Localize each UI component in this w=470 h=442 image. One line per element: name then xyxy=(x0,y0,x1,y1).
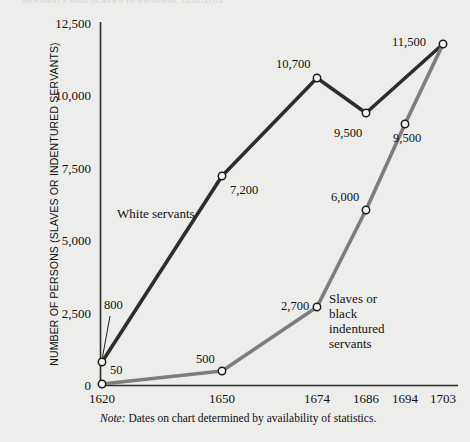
data-point-slaves-1694 xyxy=(401,120,408,127)
data-label-white-1674: 10,700 xyxy=(276,58,310,71)
data-point-slaves-1674 xyxy=(313,303,320,310)
data-label-white-1686: 9,500 xyxy=(334,127,362,140)
series-label-white-servants: White servants xyxy=(117,206,195,221)
note-prefix: Note: xyxy=(100,412,126,424)
plot-area xyxy=(0,0,470,442)
data-label-slaves-1674: 2,700 xyxy=(281,300,309,313)
series-label-slaves: Slaves or black indentured servants xyxy=(329,291,413,351)
data-point-slaves-1650 xyxy=(218,367,225,374)
data-point-white-1650 xyxy=(218,172,225,179)
data-label-slaves-1686: 6,000 xyxy=(331,191,359,204)
series-label-slaves-line3: servants xyxy=(329,336,372,351)
data-point-white-1674 xyxy=(313,74,320,81)
note-text: Dates on chart determined by availabilit… xyxy=(126,412,377,424)
data-label-slaves-1650: 500 xyxy=(196,353,215,366)
data-label-white-1620: 800 xyxy=(104,299,123,312)
data-label-slaves-1620: 50 xyxy=(110,364,123,377)
chart-note: Note: Dates on chart determined by avail… xyxy=(100,412,376,424)
series-label-slaves-line2: black indentured xyxy=(329,306,385,336)
series-label-slaves-line1: Slaves or xyxy=(329,291,377,306)
chart-container: SERVANTS AND SLAVES IN VIRGINIA, 1620-17… xyxy=(0,0,470,442)
data-point-white-1703 xyxy=(439,40,446,47)
data-point-slaves-1686 xyxy=(362,206,369,213)
data-label-white-1703: 11,500 xyxy=(392,36,426,49)
data-label-slaves-1694: 9,500 xyxy=(393,132,421,145)
data-point-white-1620 xyxy=(98,358,105,365)
data-label-white-1650: 7,200 xyxy=(230,184,258,197)
data-point-slaves-1620 xyxy=(98,380,105,387)
data-point-white-1686 xyxy=(362,109,369,116)
